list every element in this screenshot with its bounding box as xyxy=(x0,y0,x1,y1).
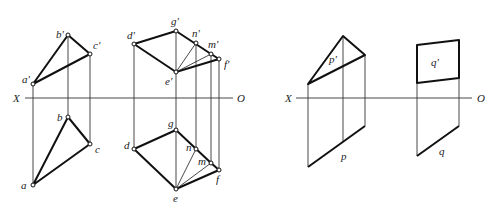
axis-o-label: O xyxy=(237,92,245,104)
plane-q-top-view xyxy=(417,126,459,156)
label-f-prime: f' xyxy=(224,58,230,70)
axis-x-label: X xyxy=(284,92,293,104)
label-e-prime: e' xyxy=(165,75,173,87)
quad-top-view xyxy=(134,130,219,189)
label-m-prime: m' xyxy=(208,38,219,50)
axis-right: X O xyxy=(284,92,485,104)
label-q: q xyxy=(439,145,445,157)
label-a-prime: a' xyxy=(22,73,31,85)
projection-diagram: X O X O a' b' c' b c a xyxy=(0,0,494,214)
label-m: m xyxy=(198,155,206,167)
label-a: a xyxy=(21,179,27,191)
label-n: n xyxy=(186,141,192,153)
label-d: d xyxy=(124,139,130,151)
axis-left: X O xyxy=(12,92,245,104)
triangle-front-view xyxy=(33,35,90,84)
label-d-prime: d' xyxy=(127,29,136,41)
label-c: c xyxy=(95,143,100,155)
axis-o-label: O xyxy=(477,92,485,104)
label-q-prime: q' xyxy=(431,56,440,68)
label-p: p xyxy=(340,150,347,162)
label-g: g xyxy=(168,117,174,129)
triangle-top-view xyxy=(33,117,90,185)
quad-defg: d' g' n' m' f' e' d g n m f e xyxy=(124,15,230,204)
plane-p: p' p xyxy=(308,36,365,167)
label-n-prime: n' xyxy=(192,27,201,39)
label-c-prime: c' xyxy=(93,39,101,51)
label-b: b xyxy=(57,111,63,123)
triangle-abc: a' b' c' b c a xyxy=(21,28,101,191)
label-e: e xyxy=(173,192,178,204)
label-p-prime: p' xyxy=(328,53,338,65)
label-f: f xyxy=(216,173,221,185)
plane-p-top-view xyxy=(308,126,365,167)
axis-x-label: X xyxy=(12,92,21,104)
plane-q: q' q xyxy=(417,40,459,157)
quad-front-view xyxy=(134,31,219,72)
label-b-prime: b' xyxy=(56,28,65,40)
label-g-prime: g' xyxy=(171,15,180,27)
